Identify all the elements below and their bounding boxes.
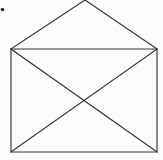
ink-speck-artifact-icon bbox=[1, 8, 5, 12]
envelope-flap-triangle bbox=[11, 0, 157, 49]
image-canvas: Simple black-and-white line drawing of a… bbox=[0, 0, 163, 160]
envelope-drawing bbox=[0, 0, 163, 160]
